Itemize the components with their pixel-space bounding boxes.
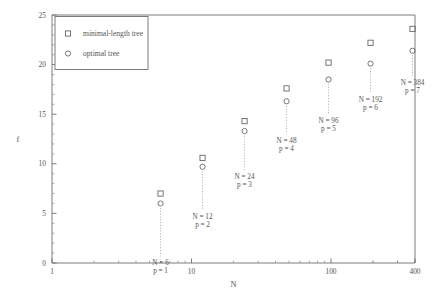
- y-tick-label: 20: [39, 60, 47, 69]
- annotation-n-label: N = 6: [152, 259, 169, 267]
- data-point-minimal-length-tree: [326, 60, 331, 65]
- scatter-plot: 0510152025110100400NfN = 6p = 1N = 12p =…: [0, 0, 441, 298]
- annotation-n-label: N = 24: [235, 173, 255, 181]
- data-point-optimal-tree: [326, 77, 331, 82]
- annotation-n-label: N = 192: [359, 96, 383, 104]
- y-tick-label: 5: [42, 209, 46, 218]
- y-tick-label: 15: [39, 110, 47, 119]
- annotation-n-label: N = 384: [401, 79, 425, 87]
- annotation-p-label: p = 2: [195, 221, 210, 229]
- data-point-optimal-tree: [242, 128, 247, 133]
- annotation-n-label: N = 48: [277, 137, 297, 145]
- annotation-p-label: p = 5: [321, 125, 336, 133]
- data-point-optimal-tree: [410, 48, 415, 53]
- x-tick-label: 100: [325, 267, 336, 276]
- data-point-optimal-tree: [284, 99, 289, 104]
- data-point-minimal-length-tree: [284, 86, 289, 91]
- annotation-p-label: p = 1: [153, 267, 168, 275]
- y-axis-title: f: [17, 135, 20, 144]
- x-tick-label: 1: [50, 267, 54, 276]
- y-tick-label: 25: [39, 11, 47, 20]
- annotation-p-label: p = 4: [279, 145, 294, 153]
- y-tick-label: 10: [39, 159, 47, 168]
- annotation-n-label: N = 96: [319, 117, 339, 125]
- annotation-p-label: p = 6: [363, 104, 378, 112]
- legend-box: [55, 17, 148, 70]
- figure-container: 0510152025110100400NfN = 6p = 1N = 12p =…: [0, 0, 441, 298]
- annotation-p-label: p = 3: [237, 181, 252, 189]
- data-point-optimal-tree: [158, 201, 163, 206]
- data-point-optimal-tree: [200, 164, 205, 169]
- annotation-p-label: p = 7: [405, 87, 420, 95]
- x-tick-label: 10: [188, 267, 196, 276]
- x-tick-label: 400: [409, 267, 420, 276]
- data-point-minimal-length-tree: [410, 26, 415, 31]
- data-point-minimal-length-tree: [158, 191, 163, 196]
- annotation-n-label: N = 12: [193, 213, 213, 221]
- legend-label-1: minimal-length tree: [83, 29, 144, 38]
- data-point-minimal-length-tree: [368, 40, 373, 45]
- data-point-minimal-length-tree: [242, 119, 247, 124]
- legend-label-2: optimal tree: [83, 49, 120, 58]
- x-axis-title: N: [230, 280, 236, 289]
- y-tick-label: 0: [42, 259, 46, 268]
- data-point-optimal-tree: [368, 61, 373, 66]
- data-point-minimal-length-tree: [200, 155, 205, 160]
